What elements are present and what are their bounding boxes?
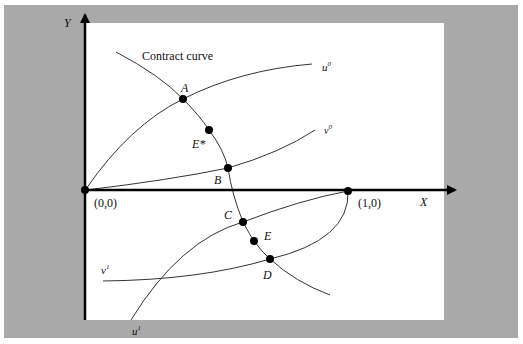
point-e-star-label: E* bbox=[191, 137, 205, 151]
y-axis-label: Y bbox=[64, 16, 72, 30]
x-axis-label: X bbox=[419, 195, 428, 209]
unit-point bbox=[344, 187, 352, 195]
origin-point bbox=[81, 186, 89, 194]
v0-label: v0 bbox=[324, 123, 332, 136]
point-e bbox=[250, 237, 258, 245]
contract-curve-label: Contract curve bbox=[142, 49, 213, 63]
point-a-label: A bbox=[180, 81, 189, 95]
contract-curve bbox=[116, 52, 330, 295]
point-c-label: C bbox=[224, 208, 233, 222]
point-d-label: D bbox=[262, 268, 272, 282]
point-b-label: B bbox=[214, 173, 222, 187]
v1-label: v1 bbox=[101, 263, 109, 276]
origin-label: (0,0) bbox=[94, 196, 117, 210]
u0-curve bbox=[86, 64, 312, 189]
u1-label: u1 bbox=[132, 324, 141, 337]
point-b bbox=[224, 164, 232, 172]
v1-curve bbox=[103, 191, 348, 281]
point-d bbox=[266, 255, 274, 263]
point-e-star bbox=[205, 126, 213, 134]
u1-curve bbox=[131, 191, 348, 320]
unit-point-label: (1,0) bbox=[358, 196, 381, 210]
point-c bbox=[239, 218, 247, 226]
edgeworth-box-diagram: Y X (0,0) (1,0) Contract curve u0 v0 v1 … bbox=[0, 0, 523, 344]
point-e-label: E bbox=[263, 229, 272, 243]
point-a bbox=[179, 95, 187, 103]
u0-label: u0 bbox=[322, 60, 332, 73]
